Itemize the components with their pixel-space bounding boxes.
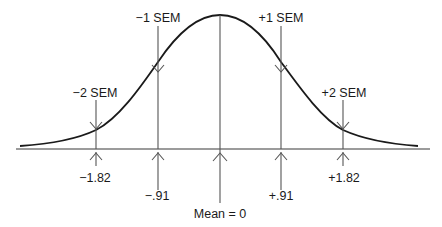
bell-curve bbox=[20, 15, 418, 146]
normal-curve-diagram: −1 SEM +1 SEM −2 SEM +2 SEM −1.82 −.91 +… bbox=[0, 0, 442, 227]
minus091-label: −.91 bbox=[145, 189, 170, 203]
plus182-label: +1.82 bbox=[328, 171, 360, 185]
plus2-sem-label: +2 SEM bbox=[322, 86, 367, 100]
minus2-sem-label: −2 SEM bbox=[73, 86, 118, 100]
minus182-label: −1.82 bbox=[79, 171, 111, 185]
minus1-sem-label: −1 SEM bbox=[136, 11, 181, 25]
plus091-label: +.91 bbox=[269, 189, 294, 203]
plus1-sem-label: +1 SEM bbox=[259, 11, 304, 25]
mean-label: Mean = 0 bbox=[194, 207, 247, 221]
